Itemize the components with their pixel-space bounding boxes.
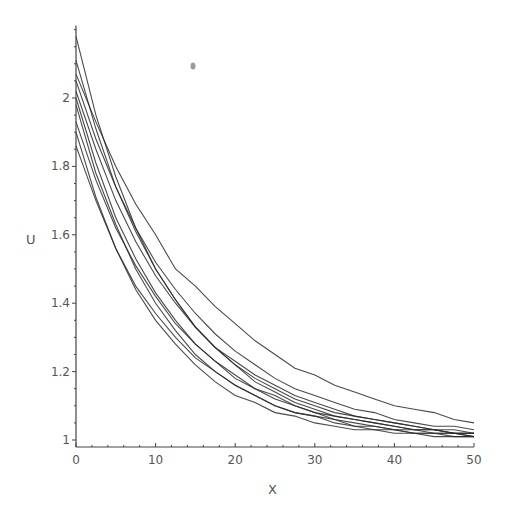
data-series-curve-10 [76,81,474,430]
data-series-curve-3 [76,74,474,423]
y-axis-ticks: 11.21.41.61.82 [51,30,76,447]
x-tick-label: 20 [228,453,243,467]
data-series-curve-2 [76,60,474,433]
y-tick-label: 2 [62,91,70,105]
data-series-curve-7 [76,122,474,433]
y-axis-label: U [26,232,36,247]
line-chart: 11.21.41.61.82 01020304050 U X [0,0,514,520]
x-tick-label: 30 [307,453,322,467]
curve-group [76,36,474,436]
y-tick-label: 1.2 [51,365,70,379]
scan-artifact-speck [191,63,196,70]
y-tick-label: 1.6 [51,228,70,242]
x-axis-label: X [268,482,277,497]
x-tick-label: 10 [148,453,163,467]
data-series-curve-6 [76,105,474,437]
x-tick-label: 0 [72,453,80,467]
y-tick-label: 1.4 [51,296,70,310]
data-series-curve-1 [76,36,474,433]
y-tick-label: 1.8 [51,159,70,173]
data-series-curve-4 [76,91,474,433]
y-tick-label: 1 [62,433,70,447]
x-tick-label: 40 [387,453,402,467]
data-series-curve-9 [76,146,474,437]
data-series-curve-8 [76,132,474,436]
x-tick-label: 50 [466,453,481,467]
